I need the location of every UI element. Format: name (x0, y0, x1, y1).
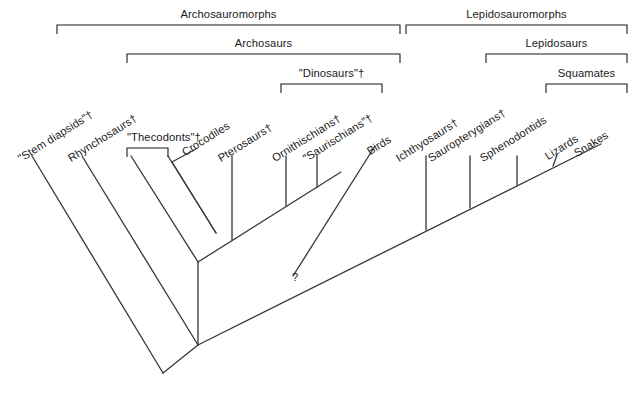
bracket-lepidosaurs (486, 54, 627, 63)
bracket-squamates (546, 84, 627, 93)
clade-label-lepidosaurs: Lepidosaurs (486, 37, 627, 49)
cladogram-figure: ArchosauromorphsLepidosauromorphsArchosa… (0, 0, 636, 412)
annotation-uncertain-bird-origin: ? (292, 271, 298, 283)
clade-label-archosaurs: Archosaurs (127, 37, 400, 49)
clade-brackets-group (0, 0, 636, 412)
clade-label-dinosaurs: "Dinosaurs"† (281, 67, 382, 79)
bracket-lepidosauromorphs (406, 25, 627, 34)
clade-label-thecodonts: "Thecodonts"† (127, 131, 168, 143)
bracket-archosauromorphs (57, 25, 400, 34)
bracket-archosaurs (127, 54, 400, 63)
bracket-thecodonts (127, 148, 168, 157)
clade-label-lepidosauromorphs: Lepidosauromorphs (406, 8, 627, 20)
clade-label-squamates: Squamates (546, 67, 627, 79)
clade-label-archosauromorphs: Archosauromorphs (57, 8, 400, 20)
bracket-dinosaurs (281, 84, 382, 93)
